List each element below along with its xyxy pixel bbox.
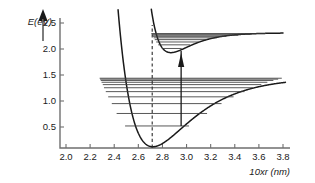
- vibrational-levels-group: [100, 34, 282, 126]
- vertical-transition-arrow-head-icon: [178, 53, 184, 67]
- y-tick-label: 1.0: [43, 95, 56, 106]
- x-tick-label: 2.0: [59, 151, 72, 162]
- y-tick-label: 2.0: [43, 43, 56, 54]
- x-tick-label: 3.8: [276, 151, 289, 162]
- x-tick-label: 2.2: [84, 151, 97, 162]
- potential-energy-diagram: 0.51.01.52.02.52.02.22.42.62.83.03.23.43…: [0, 0, 315, 183]
- x-tick-label: 2.8: [156, 151, 169, 162]
- x-tick-label: 3.0: [180, 151, 193, 162]
- x-tick-label: 2.4: [108, 151, 121, 162]
- y-tick-label: 1.5: [43, 69, 56, 80]
- plot-canvas: 0.51.01.52.02.52.02.22.42.62.83.03.23.43…: [0, 0, 315, 183]
- x-tick-label: 3.6: [252, 151, 265, 162]
- x-tick-label: 3.2: [204, 151, 217, 162]
- y-axis-title: E(eV): [28, 16, 52, 27]
- x-tick-label: 2.6: [132, 151, 145, 162]
- x-tick-label: 3.4: [228, 151, 241, 162]
- y-tick-label: 0.5: [43, 121, 56, 132]
- x-axis-title: 10xr (nm): [249, 166, 290, 177]
- excited-state-morse-potential: [151, 9, 283, 52]
